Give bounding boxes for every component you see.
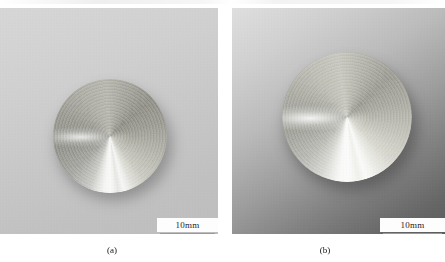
figure-root: 10mm 10mm (a) (b) [0, 0, 445, 262]
top-edge-artifact [0, 0, 445, 4]
scale-bar-rule-a [160, 233, 215, 234]
scale-bar-label-a: 10mm [176, 221, 200, 230]
specimen-disc-b [282, 52, 412, 182]
figure-panel-b: 10mm [232, 8, 445, 234]
panel-caption-a: (a) [89, 245, 135, 255]
disc-rim-b [282, 52, 412, 182]
scale-bar-b: 10mm [380, 218, 445, 232]
scale-bar-a: 10mm [157, 218, 218, 232]
specimen-disc-a [53, 79, 167, 193]
scale-bar-rule-b [383, 233, 442, 234]
scale-bar-label-b: 10mm [401, 221, 425, 230]
disc-rim-a [53, 79, 167, 193]
panel-caption-b: (b) [302, 245, 348, 255]
figure-panel-a: 10mm [0, 8, 218, 234]
